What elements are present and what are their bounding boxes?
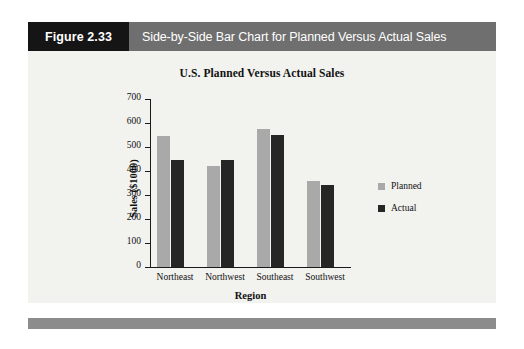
y-axis-tick: 0 [145, 267, 150, 268]
x-axis-label-northeast: Northeast [150, 272, 200, 282]
figure-footer-rule [28, 318, 496, 329]
y-axis-tick-label: 0 [136, 260, 141, 270]
y-axis-title: Sales ($1000) [128, 159, 139, 218]
y-axis-tick-label: 600 [127, 116, 141, 126]
figure-page: Figure 2.33 Side-by-Side Bar Chart for P… [0, 0, 524, 349]
legend-label: Planned [391, 181, 422, 191]
x-axis-line [150, 267, 351, 268]
y-axis-tick-label: 700 [127, 92, 141, 102]
x-axis-title: Region [150, 290, 351, 301]
x-axis-label-northwest: Northwest [200, 272, 250, 282]
legend-swatch-icon [378, 183, 385, 190]
chart-legend: PlannedActual [378, 181, 422, 225]
bar-actual-northwest [221, 160, 234, 267]
legend-swatch-icon [378, 205, 385, 212]
bar-actual-southeast [271, 135, 284, 267]
bar-actual-northeast [171, 160, 184, 267]
chart-title: U.S. Planned Versus Actual Sales [28, 67, 496, 79]
bar-group [150, 99, 200, 267]
bar-group [300, 99, 350, 267]
bar-planned-northwest [207, 166, 220, 267]
bar-group [250, 99, 300, 267]
legend-item-planned: Planned [378, 181, 422, 191]
chart-panel: U.S. Planned Versus Actual Sales 0100200… [28, 51, 496, 303]
y-axis-tick-label: 500 [127, 140, 141, 150]
bar-actual-southwest [321, 185, 334, 267]
figure-number: Figure 2.33 [28, 22, 129, 51]
legend-label: Actual [391, 203, 416, 213]
figure-caption-text: Side-by-Side Bar Chart for Planned Versu… [129, 22, 496, 51]
x-axis-label-southwest: Southwest [300, 272, 350, 282]
bar-group [200, 99, 250, 267]
bar-planned-northeast [157, 136, 170, 267]
plot-area [150, 99, 350, 267]
y-axis-tick-label: 100 [127, 236, 141, 246]
bar-planned-southwest [307, 181, 320, 267]
legend-item-actual: Actual [378, 203, 422, 213]
figure-caption-bar: Figure 2.33 Side-by-Side Bar Chart for P… [28, 22, 496, 51]
x-axis-label-southeast: Southeast [250, 272, 300, 282]
bar-planned-southeast [257, 129, 270, 267]
y-axis-tick-mark [145, 267, 150, 268]
